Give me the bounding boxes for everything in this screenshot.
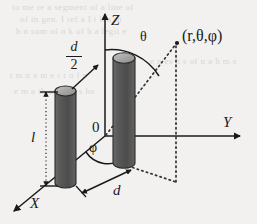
separation-label: d bbox=[113, 183, 121, 198]
point-label: (r,θ,φ) bbox=[182, 28, 222, 44]
half-diameter-label: d 2 bbox=[66, 40, 82, 73]
length-label: l bbox=[31, 130, 35, 145]
left-cylinder bbox=[55, 86, 76, 188]
separation-dimension-arrow bbox=[76, 170, 131, 197]
point-marker bbox=[175, 41, 179, 45]
origin-label: 0 bbox=[92, 120, 100, 135]
figure-container: to me re a segment of a line of of in ge… bbox=[0, 0, 257, 224]
theta-label: θ bbox=[140, 30, 147, 44]
x-axis-label: X bbox=[30, 196, 39, 211]
half-diameter-denominator: 2 bbox=[66, 58, 82, 73]
right-cylinder bbox=[113, 53, 135, 168]
y-axis-label: Y bbox=[223, 115, 231, 130]
z-axis-label: Z bbox=[111, 13, 119, 28]
phi-label: φ bbox=[89, 141, 97, 155]
half-diameter-numerator: d bbox=[66, 40, 82, 55]
